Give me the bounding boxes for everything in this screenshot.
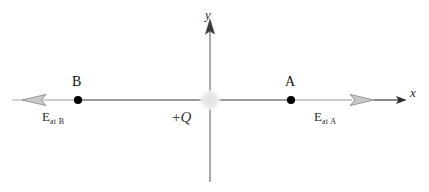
field-vector-at-b [12, 94, 78, 105]
y-axis-label: y [205, 8, 211, 21]
field-b-subscript: at B [50, 117, 64, 126]
charge-label: +Q [172, 110, 191, 125]
diagram-canvas [0, 0, 429, 192]
point-marker-b [74, 96, 82, 104]
field-label-at-b: Eat B [42, 110, 64, 126]
field-b-symbol: E [42, 109, 50, 124]
point-marker-a [287, 96, 295, 104]
field-a-symbol: E [314, 109, 322, 124]
physics-diagram-figure: y x B A +Q Eat B Eat A [0, 0, 429, 192]
x-axis-label: x [410, 86, 416, 99]
field-a-subscript: at A [322, 117, 336, 126]
point-label-a: A [285, 75, 295, 89]
field-vector-at-a [291, 94, 374, 105]
point-label-b: B [72, 75, 81, 89]
charge-marker [199, 89, 221, 111]
field-a-arrowhead-icon [350, 94, 374, 105]
charge-label-symbol: Q [180, 109, 191, 125]
field-label-at-a: Eat A [314, 110, 336, 126]
